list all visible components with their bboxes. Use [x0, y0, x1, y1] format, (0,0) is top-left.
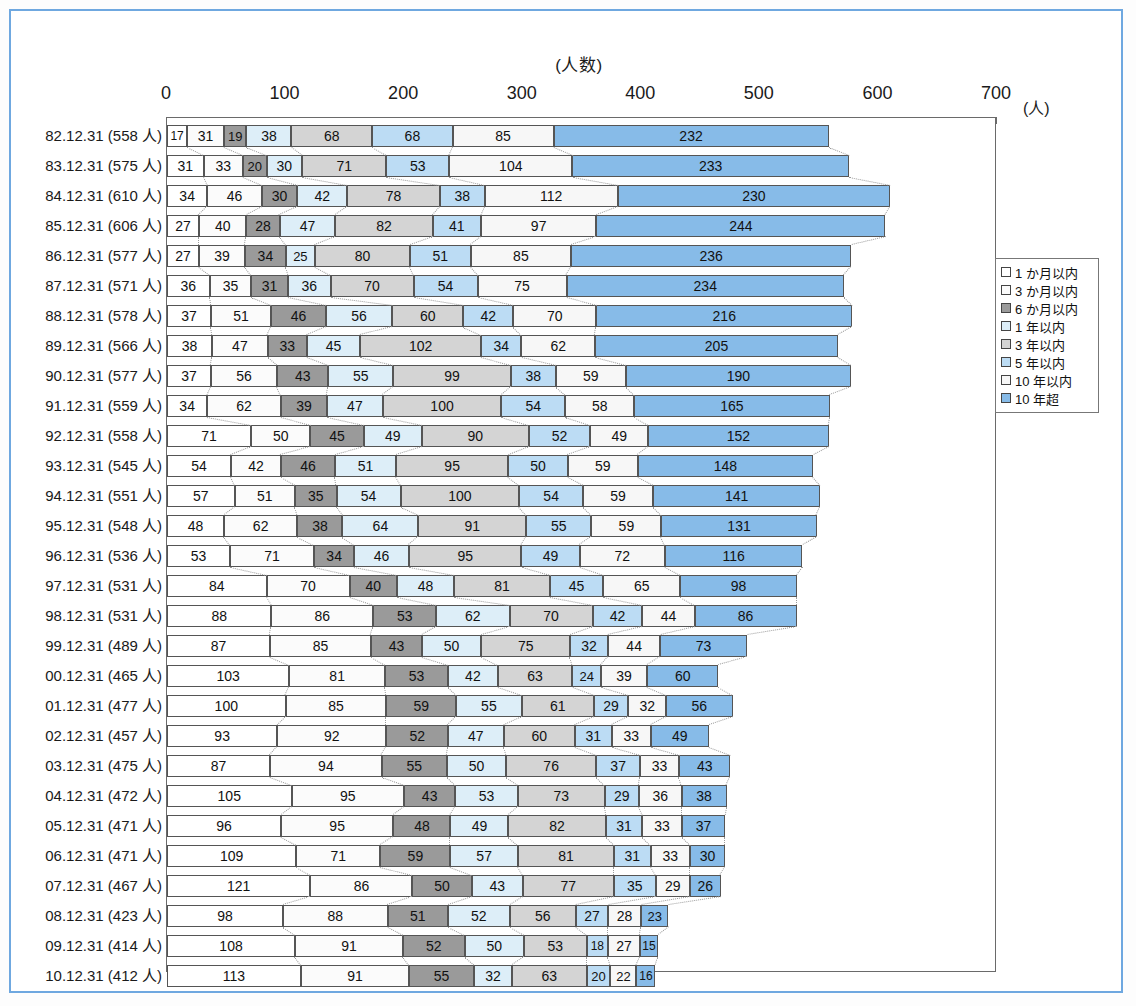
row-label: 06.12.31 (471 人): [39, 844, 162, 865]
row-label: 00.12.31 (465 人): [39, 664, 162, 685]
bar-segment-value: 33: [280, 338, 296, 354]
bar-segment-value: 43: [295, 368, 311, 384]
bar-segment: 52: [403, 935, 465, 957]
bar-segment: 42: [231, 455, 281, 477]
bar-segment: 94: [270, 755, 381, 777]
connector-line: [285, 687, 289, 695]
bar-segment-value: 92: [324, 728, 340, 744]
bar-segment: 18: [587, 935, 608, 957]
connector-line: [231, 446, 252, 455]
bar-segment-value: 38: [454, 188, 470, 204]
bar-segment: 16: [636, 965, 655, 987]
bar-segment-value: 71: [331, 848, 347, 864]
bar-segment: 39: [281, 395, 327, 417]
bar-segment-value: 48: [414, 818, 430, 834]
bar-segment: 51: [410, 245, 470, 267]
bar-segment: 59: [380, 845, 450, 867]
bar-segment-value: 33: [652, 758, 668, 774]
table-row: 36353136705475234: [167, 275, 844, 297]
bar-segment: 17: [167, 125, 187, 147]
bar-segment-value: 56: [351, 308, 367, 324]
connector-line: [613, 867, 614, 875]
bar-segment-value: 50: [434, 878, 450, 894]
bar-segment-value: 81: [329, 668, 345, 684]
bar-segment: 32: [474, 965, 512, 987]
bar-segment-value: 33: [654, 818, 670, 834]
bar-segment-value: 71: [336, 158, 352, 174]
bar-segment-value: 26: [698, 878, 714, 894]
bar-segment-value: 37: [181, 308, 197, 324]
connector-line: [576, 896, 614, 905]
table-row: 8886536270424486: [167, 605, 797, 627]
connector-line: [267, 327, 271, 335]
bar-segment-value: 94: [318, 758, 334, 774]
bar-segment-value: 31: [616, 818, 632, 834]
connector-line: [481, 626, 510, 635]
bar-segment: 131: [661, 515, 816, 537]
bar-segment-value: 38: [182, 338, 198, 354]
bar-segment-value: 33: [216, 158, 232, 174]
bar-segment: 95: [396, 455, 509, 477]
table-row: 71504549905249152: [167, 425, 829, 447]
bar-segment: 78: [347, 185, 439, 207]
bar-segment-value: 36: [301, 278, 317, 294]
bar-segment: 29: [594, 695, 628, 717]
legend-item-label: 1 年以内: [1015, 317, 1065, 336]
bar-segment-value: 31: [198, 128, 214, 144]
connector-line: [381, 746, 387, 755]
bar-segment-value: 63: [542, 968, 558, 984]
bar-segment: 236: [571, 245, 851, 267]
bar-segment: 51: [388, 905, 448, 927]
bar-segment-value: 53: [548, 938, 564, 954]
bar-segment-value: 30: [277, 158, 293, 174]
bar-segment: 98: [680, 575, 796, 597]
connector-line: [410, 236, 433, 245]
connector-line: [382, 386, 393, 395]
bar-segment-value: 98: [731, 578, 747, 594]
bar-segment-value: 48: [418, 578, 434, 594]
row-label: 08.12.31 (423 人): [39, 904, 162, 925]
bar-segment: 22: [610, 965, 636, 987]
bar-segment-value: 60: [675, 668, 691, 684]
bar-segment: 63: [512, 965, 587, 987]
bar-segment-value: 99: [444, 368, 460, 384]
bar-segment-value: 28: [617, 908, 633, 924]
bar-segment-value: 70: [364, 278, 380, 294]
bar-segment: 116: [665, 545, 803, 567]
bar-segment: 38: [297, 515, 342, 537]
bar-segment: 27: [167, 215, 199, 237]
bar-segment-value: 233: [699, 158, 722, 174]
bar-segment: 54: [501, 395, 565, 417]
bar-segment: 75: [481, 635, 570, 657]
bar-segment: 70: [510, 605, 593, 627]
chart-title: (人数): [11, 51, 1136, 76]
bar-segment: 141: [653, 485, 820, 507]
bar-segment: 49: [651, 725, 709, 747]
bar-segment: 24: [572, 665, 600, 687]
connector-line: [720, 866, 726, 875]
bar-segment-value: 30: [272, 188, 288, 204]
connector-line: [393, 806, 404, 815]
bar-segment-value: 37: [610, 758, 626, 774]
bar-segment: 43: [277, 365, 328, 387]
bar-segment: 148: [638, 455, 813, 477]
bar-segment: 46: [271, 305, 326, 327]
x-axis-tick-label: 400: [625, 83, 655, 104]
legend-item: 10 年以内: [1001, 371, 1093, 389]
bar-segment-value: 47: [468, 728, 484, 744]
bar-segment-value: 31: [178, 158, 194, 174]
connector-line: [283, 896, 311, 905]
bar-segment: 84: [167, 575, 267, 597]
bar-segment-value: 54: [361, 488, 377, 504]
row-label: 92.12.31 (558 人): [39, 424, 162, 445]
bar-segment-value: 36: [181, 278, 197, 294]
bar-segment-value: 34: [179, 188, 195, 204]
bar-segment: 36: [167, 275, 210, 297]
row-label: 87.12.31 (571 人): [39, 274, 162, 295]
bar-segment-value: 51: [358, 458, 374, 474]
bar-segment-value: 47: [300, 218, 316, 234]
legend-item: 3 年以内: [1001, 335, 1093, 353]
bar-segment-value: 49: [472, 818, 488, 834]
bar-segment-value: 61: [550, 698, 566, 714]
bar-segment-value: 42: [465, 668, 481, 684]
